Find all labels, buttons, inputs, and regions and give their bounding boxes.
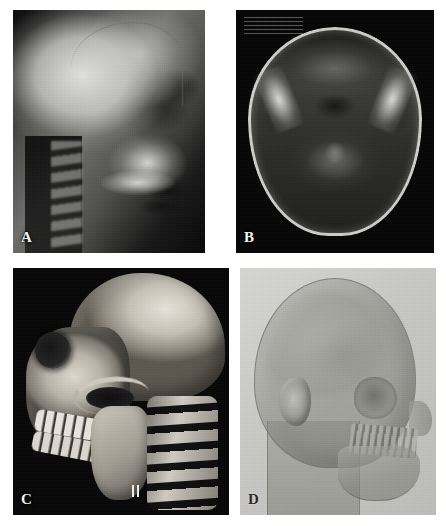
scale-marker-c (132, 485, 141, 497)
panel-a-lateral-cephalometric-radiograph: A (13, 10, 205, 253)
cervical-spine-region-a (51, 141, 82, 248)
panel-b-axial-mri: B (236, 10, 434, 253)
panel-label-c: C (21, 492, 32, 507)
panel-label-d: D (248, 492, 259, 507)
panel-label-a: A (21, 230, 32, 245)
orbit-cavity-d (354, 377, 397, 419)
external-ear (279, 377, 310, 426)
scanner-annotation-overlay (244, 17, 303, 34)
panel-d-3d-ct-soft-tissue-rendering: D (240, 268, 436, 515)
panel-label-b: B (244, 230, 255, 245)
mandibular-ramus-body (91, 406, 151, 500)
maxillomandibular-region-a (101, 161, 193, 234)
figure-montage: A B C D (0, 0, 446, 526)
panel-c-3d-ct-bone-rendering: C (13, 268, 229, 515)
cervical-vertebrae-shading (147, 396, 218, 510)
axial-head-cross-section (248, 27, 422, 236)
